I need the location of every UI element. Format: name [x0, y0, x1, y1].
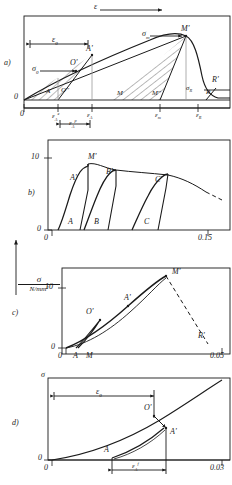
- panel-d-brace-epsA-f: εAf: [132, 462, 139, 472]
- panel-c-ticks: [58, 288, 222, 354]
- panel-c-point-A-prime: A': [124, 294, 131, 302]
- panel-c-point-M: M: [86, 352, 93, 360]
- panel-c-ytick-10: 10: [45, 283, 53, 291]
- panel-a-point-A: A: [46, 88, 50, 95]
- panel-a-sigma-m-label: σm: [142, 30, 150, 41]
- panel-a-point-O-dprime: O'': [61, 87, 69, 94]
- panel-a-point-M: M: [117, 90, 123, 97]
- panel-b-tag: b): [28, 188, 35, 197]
- sigma-axis-label: σ N/mm²: [18, 275, 60, 294]
- panel-d-eps0-label: ε0: [96, 388, 102, 399]
- panel-d-ytick-0: 0: [38, 454, 42, 462]
- panel-d-xtick-max: 0.03: [210, 464, 224, 472]
- panel-d-graphics: [44, 378, 230, 474]
- panel-b-envelope-dashed: [206, 192, 222, 200]
- figure-stress-strain-panels: a) ε ε0 σ0 σm σR 0 0 A A' O' O'' M M'' M…: [0, 0, 232, 485]
- panel-a-eps0-label: ε0: [52, 36, 58, 47]
- panel-a-tag: a): [4, 58, 11, 67]
- panel-a-tick-epsA-e: εAe: [52, 112, 59, 122]
- panel-a-tick-epsM: εm: [155, 112, 161, 121]
- sigma-unit: N/mm²: [18, 284, 60, 293]
- panel-d-frame: [48, 378, 230, 460]
- panel-b-point-B-prime: B': [106, 168, 113, 176]
- panel-d-point-O-prime: O': [144, 404, 152, 412]
- panel-b-point-A-prime: A': [70, 174, 77, 182]
- panel-a-top-strain-symbol: ε: [94, 3, 97, 11]
- panel-a-sigma0-label: σ0: [32, 65, 38, 76]
- panel-a-point-M-dprime: M'': [152, 90, 161, 97]
- panel-c-point-R-prime: R': [198, 332, 205, 340]
- panel-c-companion-curve: [66, 278, 166, 348]
- panel-b-cycle-B-load: [84, 170, 116, 230]
- panel-a-origin-inner: 0: [14, 93, 18, 101]
- panel-a-tick-epsR: εR: [196, 112, 201, 121]
- panel-b-point-C-prime: C': [155, 176, 162, 184]
- panel-b-xtick-max: 0.15: [198, 234, 212, 242]
- sigma-symbol: σ: [18, 275, 60, 284]
- panel-b-point-M-prime: M': [88, 153, 96, 161]
- panel-d-envelope-curve: [52, 380, 222, 460]
- panel-c-ytick-0: 0: [51, 343, 55, 351]
- panel-c-xtick-0: 0: [58, 352, 62, 360]
- panel-a-sigma-R-label: σR: [186, 85, 192, 94]
- panel-c-xtick-max: 0.05: [210, 352, 224, 360]
- panel-d-epsAf-dimension: [112, 428, 166, 474]
- panel-d-tag: d): [12, 418, 19, 427]
- panel-c-point-M-prime: M': [172, 268, 180, 276]
- panel-b-xtick-0: 0: [44, 234, 48, 242]
- panel-c-graphics: [58, 268, 230, 354]
- panel-a-point-O-prime: O': [70, 59, 78, 67]
- panel-d-xtick-0: 0: [44, 464, 48, 472]
- panel-a-origin-axis: 0: [20, 110, 24, 118]
- panel-b-frame: [48, 140, 230, 230]
- panel-a-point-A-prime: A': [86, 45, 93, 53]
- panel-d-eps0-dimension: [54, 390, 154, 418]
- panel-a-point-M-prime: M': [181, 25, 189, 33]
- panel-b-point-A: A: [68, 218, 73, 226]
- panel-b-cycle-B-unload: [108, 170, 116, 230]
- panel-b-envelope-tail: [168, 175, 206, 192]
- panel-d-point-A: A: [104, 446, 109, 454]
- panel-b-ytick-0: 0: [37, 225, 41, 233]
- panel-d-y-axis-symbol: σ: [41, 371, 45, 379]
- panel-a-tick-epsA: εA: [87, 112, 92, 121]
- panel-c-loading-curve: [66, 276, 166, 348]
- panel-b-cycle-A-unload: [80, 164, 88, 230]
- panel-d-point-A-prime: A': [170, 428, 177, 436]
- panel-a-eps0-dimension: [30, 40, 88, 48]
- panel-b-cycle-C-load: [132, 174, 168, 230]
- panel-c-hysteresis-loop: [76, 320, 100, 348]
- panel-c-tag: c): [12, 308, 18, 317]
- panel-c-point-A: A: [73, 352, 78, 360]
- panel-b-ytick-10: 10: [31, 153, 39, 161]
- panel-c-point-O-prime: O': [86, 308, 94, 316]
- panel-b-envelope: [88, 164, 168, 175]
- panel-a-brace-epsA-p: εAp: [69, 119, 77, 129]
- panel-a-point-R-prime: R': [212, 76, 219, 84]
- panel-a-point-R: R: [206, 89, 210, 96]
- panel-b-point-B: B: [94, 218, 99, 226]
- panel-b-point-C: C: [144, 218, 149, 226]
